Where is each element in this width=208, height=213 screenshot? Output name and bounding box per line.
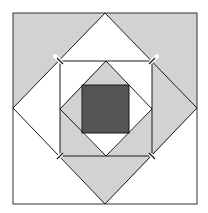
nested-squares-diagram bbox=[0, 0, 208, 213]
center-square bbox=[82, 85, 129, 133]
